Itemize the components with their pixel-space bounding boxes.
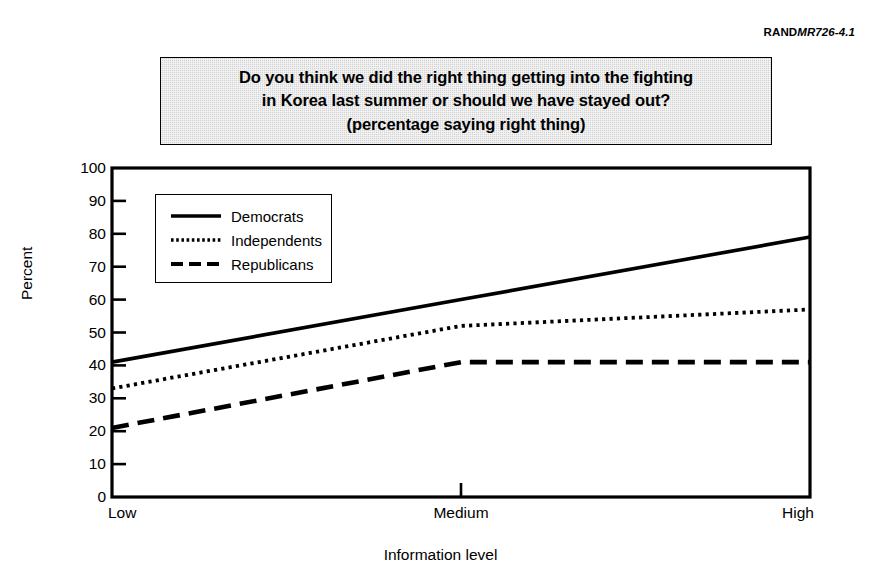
x-tick-label: Low bbox=[108, 505, 136, 521]
y-tick-label: 80 bbox=[58, 226, 106, 242]
plot-canvas bbox=[0, 0, 869, 585]
series-line-independents bbox=[112, 309, 810, 388]
y-tick-label: 30 bbox=[58, 390, 106, 406]
x-axis-title: Information level bbox=[0, 546, 869, 564]
y-tick-label: 90 bbox=[58, 193, 106, 209]
legend-label-republicans: Republicans bbox=[231, 257, 314, 272]
y-tick-label: 20 bbox=[58, 423, 106, 439]
legend-label-independents: Independents bbox=[231, 233, 322, 248]
y-tick-label: 70 bbox=[58, 259, 106, 275]
x-axis-title-text: Information level bbox=[384, 546, 498, 563]
y-tick-label: 40 bbox=[58, 357, 106, 373]
legend-item-independents: Independents bbox=[170, 228, 331, 252]
legend-swatch-dotted-icon bbox=[170, 233, 222, 247]
x-tick-label: High bbox=[782, 505, 814, 521]
legend-swatch-solid-icon bbox=[170, 209, 222, 223]
legend-item-democrats: Democrats bbox=[170, 204, 331, 228]
legend-item-republicans: Republicans bbox=[170, 252, 331, 276]
chart-legend: Democrats Independents Republicans bbox=[155, 194, 332, 283]
line-chart: Percent 0102030405060708090100 LowMedium… bbox=[0, 0, 869, 585]
y-tick-label: 0 bbox=[58, 489, 106, 505]
legend-label-democrats: Democrats bbox=[231, 209, 304, 224]
y-tick-label: 100 bbox=[58, 160, 106, 176]
y-tick-label: 60 bbox=[58, 292, 106, 308]
legend-swatch-dashed-icon bbox=[170, 257, 222, 271]
y-axis-title: Percent bbox=[18, 247, 36, 300]
x-axis-tick-labels: LowMediumHigh bbox=[0, 505, 869, 529]
series-line-republicans bbox=[112, 362, 810, 428]
x-tick-label: Medium bbox=[433, 505, 488, 521]
y-axis-tick-labels: 0102030405060708090100 bbox=[58, 0, 106, 585]
y-tick-label: 50 bbox=[58, 325, 106, 341]
y-tick-label: 10 bbox=[58, 456, 106, 472]
